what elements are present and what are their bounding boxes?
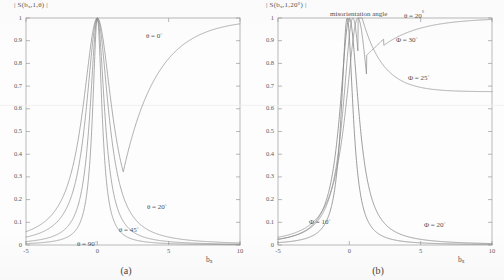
y-tick-label: 0.5 (6, 128, 22, 135)
x-tick-label: -5 (19, 248, 33, 255)
x-tick-label: 10 (485, 248, 499, 255)
misorientation-angle-note: misorientation angle (330, 11, 387, 18)
y-tick-label: 0.7 (258, 83, 274, 90)
y-tick-label: 0.6 (6, 105, 22, 112)
y-tick-label: 1 (6, 15, 22, 22)
annotation-phi-25: Φ = 25° (408, 74, 430, 82)
annotation-theta-20: θ = 20° (147, 203, 167, 211)
plot-panel-b: | S(bx,1,20°) | bx (b) misorientation an… (252, 0, 504, 280)
x-tick-label: -5 (271, 248, 285, 255)
y-tick-label: 0.1 (258, 219, 274, 226)
panel-caption-b: (b) (252, 266, 504, 276)
annotation-phi-30: Φ = 30° (396, 36, 418, 44)
header-theta-value: θ = 20° (404, 11, 424, 20)
figure-container: | S(bx,1,θ) | bx (a) θ = 0° θ = 20° θ = … (0, 0, 504, 280)
y-tick-label: 0.5 (258, 128, 274, 135)
y-tick-label: 0.8 (6, 60, 22, 67)
y-tick-label: 0.6 (258, 105, 274, 112)
y-tick-label: 0.7 (6, 83, 22, 90)
panel-caption-a: (a) (0, 266, 252, 276)
x-tick-label: 0 (90, 248, 104, 255)
annotation-theta-45: θ = 45° (119, 226, 139, 234)
x-tick-label: 0 (342, 248, 356, 255)
annotation-theta-90: θ = 90° (77, 240, 97, 248)
annotation-theta-0: θ = 0° (146, 32, 162, 40)
plot-canvas-b (252, 0, 504, 280)
annotation-phi-20: Φ = 20° (424, 221, 446, 229)
y-tick-label: 0.4 (258, 151, 274, 158)
y-tick-label: 0.2 (6, 196, 22, 203)
x-tick-label: 5 (414, 248, 428, 255)
y-tick-label: 0.9 (258, 37, 274, 44)
plot-panel-a: | S(bx,1,θ) | bx (a) θ = 0° θ = 20° θ = … (0, 0, 252, 280)
y-tick-label: 0.1 (6, 219, 22, 226)
y-tick-label: 0.2 (258, 196, 274, 203)
x-tick-label: 10 (233, 248, 247, 255)
plot-canvas-a (0, 0, 252, 280)
y-tick-label: 1 (258, 15, 274, 22)
x-tick-label: 5 (162, 248, 176, 255)
y-tick-label: 0.3 (258, 173, 274, 180)
x-axis-title-b: bx (458, 256, 465, 265)
annotation-phi-10: Φ = 10° (309, 218, 331, 226)
y-tick-label: 0.4 (6, 151, 22, 158)
y-tick-label: 0.9 (6, 37, 22, 44)
y-tick-label: 0.3 (6, 173, 22, 180)
y-tick-label: 0.8 (258, 60, 274, 67)
x-axis-title-a: bx (206, 256, 213, 265)
